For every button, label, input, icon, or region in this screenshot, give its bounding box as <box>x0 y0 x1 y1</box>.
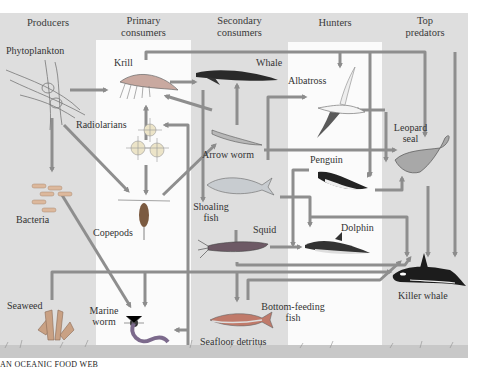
label-arrow-worm: Arrow worm <box>202 149 254 160</box>
arrow-penguin-leopard-seal <box>375 178 402 190</box>
illustration-part <box>45 60 51 130</box>
marine-worm-illustration <box>124 316 168 342</box>
illustration-part <box>124 316 144 323</box>
food-web-graphics <box>0 0 477 370</box>
label-dolphin: Dolphin <box>341 222 374 233</box>
arrow-squid-killer-whale <box>237 258 410 265</box>
label-bacteria: Bacteria <box>16 214 49 225</box>
arrow-krill-leopard-seal <box>146 52 425 135</box>
label-line: fish <box>257 312 329 323</box>
shoaling-fish-illustration <box>207 178 274 195</box>
food-web-diagram: Producers Primary consumers Secondary co… <box>0 0 477 370</box>
label-squid: Squid <box>253 224 276 235</box>
label-line: Marine <box>86 305 122 316</box>
illustration-part <box>50 98 62 108</box>
illustration-part <box>317 112 340 138</box>
arrow-seaweed-killer-whale <box>52 272 390 300</box>
label-bottom-feeding-fish: Bottom-feeding fish <box>257 301 329 323</box>
whale-illustration <box>196 70 278 85</box>
illustration-part <box>45 310 54 340</box>
illustration-part <box>196 70 278 80</box>
penguin-illustration <box>318 172 368 190</box>
arrow-shoaling-dolphin <box>280 197 310 225</box>
illustration-part <box>40 192 54 196</box>
illustration-part <box>20 95 75 118</box>
label-seaweed: Seaweed <box>7 300 43 311</box>
label-phytoplankton: Phytoplankton <box>6 45 64 56</box>
illustration-part <box>208 242 268 252</box>
illustration-part <box>207 178 274 195</box>
illustration-part <box>340 67 355 105</box>
squid-illustration <box>198 240 268 258</box>
arrow-worm-illustration <box>212 130 262 145</box>
label-radiolarians: Radiolarians <box>76 119 127 130</box>
label-leopard-seal: Leopard seal <box>388 122 433 144</box>
illustration-part <box>318 105 365 114</box>
arrow-detritus-radiolarians <box>165 125 188 345</box>
illustration-part <box>198 240 208 258</box>
label-albatross: Albatross <box>288 75 326 86</box>
dolphin-illustration <box>305 232 370 254</box>
krill-illustration <box>120 74 178 99</box>
arrow-phytoplankton-copepods <box>64 125 128 191</box>
illustration-part <box>48 186 62 190</box>
illustration-part <box>52 52 455 345</box>
label-krill: Krill <box>114 57 133 68</box>
illustration-part <box>335 232 342 241</box>
illustration-part <box>32 200 46 204</box>
arrow-bacteria-marine-worm <box>62 195 130 306</box>
arrow-whale-feed-krill <box>166 96 212 110</box>
illustration-part <box>6 70 80 110</box>
arrow-bottomfish-killer-whale <box>248 262 400 300</box>
label-line: Leopard <box>388 122 433 133</box>
killer-whale-illustration <box>393 253 466 286</box>
illustration-part <box>32 184 46 188</box>
label-penguin: Penguin <box>310 154 343 165</box>
illustration-part <box>420 253 428 268</box>
label-marine-worm: Marine worm <box>86 305 122 327</box>
seaweed-illustration <box>38 310 74 340</box>
arrow-shoaling-penguin <box>293 170 309 245</box>
illustration-part <box>132 323 168 342</box>
illustration-part <box>139 203 149 227</box>
label-copepods: Copepods <box>93 227 133 238</box>
illustration-part <box>118 200 170 201</box>
illustration-part <box>400 273 406 276</box>
label-killer-whale: Killer whale <box>398 290 448 301</box>
bacteria-illustration <box>32 184 72 212</box>
label-whale: Whale <box>256 57 282 68</box>
label-line: worm <box>86 316 122 327</box>
label-seafloor-detritus: Seafloor detritus <box>200 336 266 347</box>
figure-caption: AN OCEANIC FOOD WEB <box>0 360 98 369</box>
label-line: Shoaling <box>190 201 232 212</box>
illustration-part <box>58 192 72 196</box>
illustration-part <box>10 80 85 115</box>
label-line: seal <box>388 133 433 144</box>
label-line: Bottom-feeding <box>257 301 329 312</box>
illustration-part <box>42 208 56 212</box>
illustration-part <box>60 322 74 340</box>
label-line: fish <box>190 212 232 223</box>
phytoplankton-illustration <box>6 60 85 130</box>
label-shoaling-fish: Shoaling fish <box>190 201 232 223</box>
illustration-part <box>393 267 466 286</box>
illustration-part <box>212 130 262 145</box>
